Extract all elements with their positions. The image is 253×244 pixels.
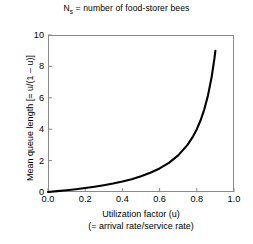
x-tick-label: 0.2 [70,194,100,204]
x-tick-label: 0.4 [107,194,137,204]
x-axis-label-line2: (= arrival rate/service rate) [48,220,234,232]
x-tick-label: 0.6 [145,194,175,204]
x-axis-label: Utilization factor (u) (= arrival rate/s… [48,208,234,232]
figure-container: Ns = number of food-storer bees 0246810 … [0,0,253,244]
x-tick-label: 1.0 [219,194,249,204]
x-tick-label: 0.0 [33,194,63,204]
y-axis-label: Mean queue length [= u/(1 – u)] [25,28,35,208]
x-tick-label: 0.8 [182,194,212,204]
x-axis-label-line1: Utilization factor (u) [48,208,234,220]
